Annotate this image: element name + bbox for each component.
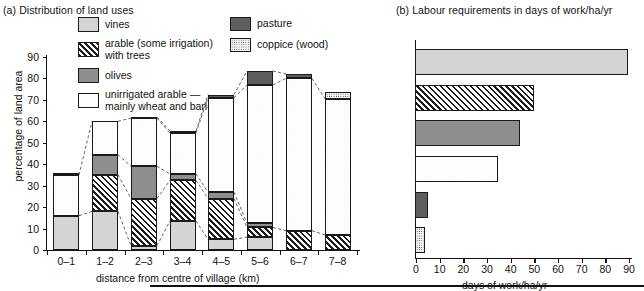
panel-a-y-tick-mark bbox=[43, 78, 46, 79]
panel-a-segment-vines bbox=[208, 239, 234, 250]
panel-a-x-tick-mark bbox=[86, 251, 87, 255]
panel-a-x-tick: 7–8 bbox=[314, 255, 362, 267]
panel-a-stacked-bar bbox=[92, 57, 118, 250]
panel-a-tie-line bbox=[118, 118, 131, 121]
panel-a-stacked-bar bbox=[286, 57, 312, 250]
panel-a-tie-line bbox=[273, 71, 286, 74]
panel-a-tie-line bbox=[79, 211, 92, 215]
panel-a-stacked-bar bbox=[53, 57, 79, 250]
panel-a-segment-coppice bbox=[325, 92, 351, 98]
panel-a-x-tick-mark bbox=[47, 251, 48, 255]
panel-a-segment-arable bbox=[208, 199, 234, 240]
panel-b-bar-arable bbox=[415, 85, 534, 111]
panel-a-segment-arable bbox=[92, 175, 118, 211]
panel-a-y-tick-mark bbox=[43, 164, 46, 165]
panel-a-y-tick: 60 bbox=[17, 115, 39, 127]
panel-b-x-tick-mark bbox=[558, 259, 559, 263]
panel-a-tie-line bbox=[157, 166, 170, 174]
panel-a-segment-pasture bbox=[286, 74, 312, 78]
panel-b-x-tick-mark bbox=[582, 259, 583, 263]
panel-a-segment-olives bbox=[247, 223, 273, 227]
panel-a-y-tick: 20 bbox=[17, 201, 39, 213]
panel-a-tie-line bbox=[157, 180, 170, 198]
panel-a-y-tick-mark bbox=[43, 250, 46, 251]
panel-a-tie-line bbox=[79, 121, 92, 175]
panel-a-segment-pasture bbox=[208, 95, 234, 98]
panel-a-y-tick: 10 bbox=[17, 223, 39, 235]
panel-a-tie-line bbox=[118, 175, 131, 199]
panel-a-tie-line bbox=[196, 98, 208, 133]
panel-a-segment-vines bbox=[247, 237, 273, 250]
bottom-rule bbox=[150, 285, 644, 287]
panel-a-stacked-bar bbox=[208, 57, 234, 250]
panel-b-x-tick-mark bbox=[605, 259, 606, 263]
panel-a-x-axis-label: distance from centre of village (km) bbox=[96, 272, 259, 284]
panel-a-tie-line bbox=[234, 237, 247, 239]
panel-a-segment-unirrigated-arable bbox=[286, 78, 312, 230]
panel-b-x-tick: 40 bbox=[499, 263, 523, 275]
panel-b-x-tick-mark bbox=[511, 259, 512, 263]
panel-a-segment-arable bbox=[286, 231, 312, 250]
panel-b-x-tick: 20 bbox=[451, 263, 475, 275]
panel-a-tie-line bbox=[234, 192, 247, 223]
chart-panel-a: percentage of land area 0102030405060708… bbox=[0, 0, 392, 291]
panel-a-tie-line bbox=[157, 117, 170, 131]
panel-a-y-tick-mark bbox=[43, 121, 46, 122]
panel-b-bar-unirrigated-arable bbox=[415, 156, 498, 182]
panel-a-y-tick: 30 bbox=[17, 180, 39, 192]
panel-a-segment-pasture bbox=[247, 71, 273, 85]
panel-b-bar-coppice bbox=[415, 227, 425, 253]
panel-b-x-tick: 80 bbox=[593, 263, 617, 275]
panel-a-segment-olives bbox=[170, 174, 196, 180]
panel-a-tie-line bbox=[312, 231, 325, 235]
panel-a-tie-line bbox=[118, 155, 131, 167]
panel-a-tie-line bbox=[196, 180, 208, 198]
panel-a-segment-vines bbox=[170, 221, 196, 250]
panel-a-segment-olives bbox=[92, 155, 118, 175]
panel-a-x-tick-mark bbox=[163, 251, 164, 255]
panel-a-stacked-bar bbox=[325, 57, 351, 250]
panel-b-x-axis bbox=[415, 258, 632, 259]
panel-a-x-tick-mark bbox=[280, 251, 281, 255]
panel-b-x-tick-mark bbox=[534, 259, 535, 263]
panel-a-segment-pasture bbox=[131, 117, 157, 119]
panel-b-x-tick: 0 bbox=[404, 263, 428, 275]
panel-a-tie-line bbox=[118, 211, 131, 245]
panel-a-y-tick: 0 bbox=[17, 244, 39, 256]
panel-a-x-tick-mark bbox=[202, 251, 203, 255]
panel-a-segment-unirrigated-arable bbox=[53, 175, 79, 216]
panel-a-tie-line bbox=[157, 221, 170, 246]
panel-b-bar-olives bbox=[415, 120, 520, 146]
panel-a-y-tick: 80 bbox=[17, 72, 39, 84]
panel-a-segment-arable bbox=[170, 180, 196, 221]
panel-a-segment-unirrigated-arable bbox=[170, 133, 196, 174]
panel-a-y-tick-mark bbox=[43, 57, 46, 58]
panel-a-x-tick-mark bbox=[125, 251, 126, 255]
panel-b-x-tick-mark bbox=[440, 259, 441, 263]
panel-b-x-tick: 60 bbox=[546, 263, 570, 275]
panel-a-segment-arable bbox=[247, 227, 273, 237]
panel-b-x-tick: 50 bbox=[522, 263, 546, 275]
panel-a-segment-vines bbox=[131, 246, 157, 250]
panel-a-tie-line bbox=[157, 118, 170, 133]
panel-b-bar-vines bbox=[415, 49, 628, 75]
panel-a-segment-pasture bbox=[170, 131, 196, 133]
panel-a-tie-line bbox=[273, 227, 286, 230]
panel-a-tie-line bbox=[196, 221, 208, 239]
panel-a-segment-arable bbox=[131, 199, 157, 246]
panel-a-tie-line bbox=[234, 199, 247, 228]
panel-a-y-tick: 70 bbox=[17, 94, 39, 106]
panel-a-tie-line bbox=[273, 78, 286, 84]
panel-a-tie-line bbox=[196, 95, 208, 131]
panel-a-y-tick: 40 bbox=[17, 158, 39, 170]
panel-b-x-tick-mark bbox=[629, 259, 630, 263]
panel-b-x-tick: 30 bbox=[475, 263, 499, 275]
panel-a-x-tick-mark bbox=[357, 251, 358, 255]
panel-a-segment-unirrigated-arable bbox=[208, 98, 234, 192]
panel-a-stacked-bar bbox=[131, 57, 157, 250]
chart-panel-b: 0102030405060708090 days of work/ha/yr bbox=[392, 0, 644, 291]
panel-a-tie-line bbox=[234, 85, 247, 98]
panel-a-segment-unirrigated-arable bbox=[325, 99, 351, 235]
panel-a-stacked-bar bbox=[170, 57, 196, 250]
panel-a-segment-unirrigated-arable bbox=[92, 121, 118, 154]
